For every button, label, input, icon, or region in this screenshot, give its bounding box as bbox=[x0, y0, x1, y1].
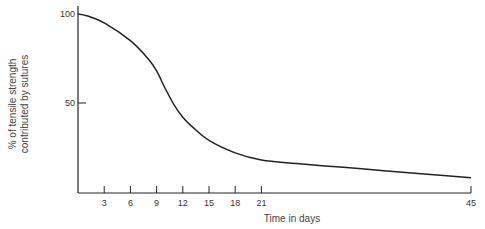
y-ticks: 10050 bbox=[60, 9, 86, 108]
y-tick-label: 50 bbox=[65, 98, 75, 108]
x-ticks: 3691215182145 bbox=[102, 186, 476, 208]
x-tick-label: 18 bbox=[230, 198, 240, 208]
line-chart: % of tensile strength contributed by sut… bbox=[0, 0, 485, 229]
x-tick-label: 9 bbox=[154, 198, 159, 208]
y-axis-title-line-1: % of tensile strength bbox=[7, 59, 18, 150]
x-tick-label: 12 bbox=[178, 198, 188, 208]
x-tick-label: 45 bbox=[466, 198, 476, 208]
x-axis-title: Time in days bbox=[264, 213, 320, 224]
x-tick-label: 6 bbox=[128, 198, 133, 208]
y-axis-title: % of tensile strength contributed by sut… bbox=[7, 55, 30, 153]
strength-curve bbox=[78, 14, 471, 178]
y-tick-label: 100 bbox=[60, 9, 75, 19]
y-axis-title-line-2: contributed by sutures bbox=[19, 55, 30, 153]
x-tick-label: 3 bbox=[102, 198, 107, 208]
x-tick-label: 15 bbox=[204, 198, 214, 208]
x-tick-label: 21 bbox=[256, 198, 266, 208]
